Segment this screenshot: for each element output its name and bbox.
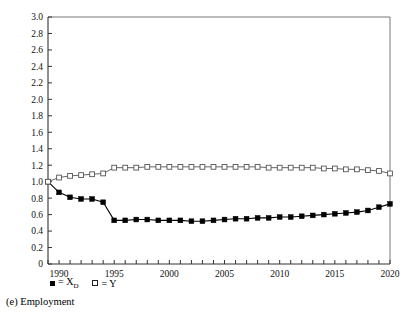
data-point-y <box>388 171 393 176</box>
data-point-y <box>310 165 315 170</box>
data-point-y <box>79 173 84 178</box>
data-point-y <box>57 175 62 180</box>
data-point-xd <box>343 211 348 216</box>
x-axis-tick-label: 2015 <box>325 269 344 279</box>
data-point-y <box>189 164 194 169</box>
y-axis-tick-label: 0 <box>38 259 43 269</box>
data-point-y <box>200 164 205 169</box>
data-point-y <box>277 165 282 170</box>
data-point-xd <box>299 214 304 219</box>
data-point-y <box>233 164 238 169</box>
data-point-y <box>90 172 95 177</box>
data-point-y <box>101 171 106 176</box>
data-point-xd <box>156 218 161 223</box>
data-point-y <box>156 164 161 169</box>
data-point-y <box>299 165 304 170</box>
data-point-y <box>46 179 51 184</box>
data-point-xd <box>57 190 62 195</box>
data-point-xd <box>377 205 382 210</box>
y-axis-tick-label: 2.4 <box>31 62 43 72</box>
data-point-y <box>266 165 271 170</box>
data-point-xd <box>310 213 315 218</box>
data-point-xd <box>233 216 238 221</box>
data-point-y <box>222 164 227 169</box>
data-point-xd <box>123 218 128 223</box>
data-point-xd <box>388 202 393 207</box>
data-point-y <box>68 174 73 179</box>
data-point-y <box>134 165 139 170</box>
legend-label-xd: = XD <box>58 276 78 290</box>
y-axis-tick-label: 1.2 <box>31 161 43 171</box>
figure-employment: 00.20.40.60.81.01.21.41.61.82.02.22.42.6… <box>0 0 415 315</box>
data-point-y <box>332 166 337 171</box>
data-point-xd <box>79 197 84 202</box>
data-point-xd <box>167 218 172 223</box>
data-point-y <box>178 164 183 169</box>
data-point-xd <box>90 197 95 202</box>
data-point-y <box>355 167 360 172</box>
y-axis-tick-label: 2.2 <box>31 78 43 88</box>
data-point-y <box>211 164 216 169</box>
data-point-xd <box>288 215 293 220</box>
x-axis-tick-label: 2020 <box>381 269 400 279</box>
chart-legend: = XD = Y <box>50 276 116 290</box>
open-square-marker-icon <box>92 280 98 286</box>
data-point-y <box>145 164 150 169</box>
data-point-xd <box>101 200 106 205</box>
data-point-xd <box>255 215 260 220</box>
data-point-y <box>167 164 172 169</box>
data-point-xd <box>112 218 117 223</box>
y-axis-tick-label: 1.0 <box>31 177 43 187</box>
data-point-y <box>123 165 128 170</box>
data-point-y <box>366 168 371 173</box>
data-point-y <box>343 167 348 172</box>
data-point-y <box>112 165 117 170</box>
x-axis-tick-label: 2010 <box>270 269 289 279</box>
data-point-xd <box>277 215 282 220</box>
y-axis-tick-label: 0.6 <box>31 210 43 220</box>
y-axis-tick-label: 0.4 <box>31 226 43 236</box>
series-line-xd <box>48 182 390 222</box>
figure-caption: (e) Employment <box>6 296 75 307</box>
data-point-xd <box>222 217 227 222</box>
data-point-xd <box>321 212 326 217</box>
legend-label-y: = Y <box>101 278 116 289</box>
y-axis-tick-label: 3.0 <box>31 12 43 22</box>
y-axis-tick-label: 2.0 <box>31 95 43 105</box>
y-axis-tick-label: 2.8 <box>31 29 43 39</box>
data-point-xd <box>244 216 249 221</box>
data-point-xd <box>211 218 216 223</box>
y-axis-tick-label: 1.8 <box>31 111 43 121</box>
legend-item-y: = Y <box>92 278 116 289</box>
data-point-xd <box>178 218 183 223</box>
y-axis-tick-label: 0.2 <box>31 243 43 253</box>
data-point-y <box>321 166 326 171</box>
filled-square-marker-icon <box>50 281 55 286</box>
x-axis-tick-label: 2000 <box>160 269 179 279</box>
y-axis-tick-label: 1.6 <box>31 128 43 138</box>
data-point-xd <box>266 215 271 220</box>
data-point-xd <box>68 195 73 200</box>
data-point-y <box>255 164 260 169</box>
data-point-xd <box>145 217 150 222</box>
data-point-xd <box>189 219 194 224</box>
y-axis-tick-label: 0.8 <box>31 194 43 204</box>
employment-line-chart: 00.20.40.60.81.01.21.41.61.82.02.22.42.6… <box>0 0 415 315</box>
data-point-xd <box>200 219 205 224</box>
data-point-xd <box>134 217 139 222</box>
series-line-y <box>48 167 390 182</box>
legend-item-xd: = XD <box>50 276 78 290</box>
y-axis-tick-label: 2.6 <box>31 45 43 55</box>
data-point-y <box>377 169 382 174</box>
data-point-xd <box>355 210 360 215</box>
data-point-xd <box>366 208 371 213</box>
data-point-xd <box>332 211 337 216</box>
data-point-y <box>244 164 249 169</box>
y-axis-tick-label: 1.4 <box>31 144 43 154</box>
x-axis-tick-label: 2005 <box>215 269 234 279</box>
data-point-y <box>288 165 293 170</box>
